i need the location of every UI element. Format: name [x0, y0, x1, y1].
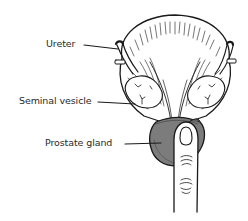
left-ureter [115, 41, 138, 74]
ureter-leader-line [84, 45, 118, 49]
right-ureter [215, 42, 236, 74]
prostate-exam-diagram [0, 0, 248, 221]
prostate-gland-label: Prostate gland [45, 138, 112, 148]
examining-finger [174, 122, 198, 212]
ureter-label: Ureter [46, 39, 75, 49]
seminal-vesicle-label: Seminal vesicle [19, 96, 92, 106]
